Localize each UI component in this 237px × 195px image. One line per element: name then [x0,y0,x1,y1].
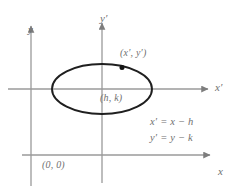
y-prime-axis-label: y′ [100,13,108,24]
y-axis-label: y [28,24,33,35]
point-marker [120,65,125,70]
x-prime-axis-label: x′ [215,82,223,93]
equation-x-prime: x′ = x − h [150,117,194,128]
point-coordinate-label: (x′, y′) [120,48,147,58]
x-axis-label: x [218,166,223,177]
origin-label: (0, 0) [42,160,65,170]
ellipse-center-label: (h, k) [100,93,122,103]
equation-y-prime: y′ = y − k [150,133,193,144]
translated-axes-ellipse-figure: y′ y x′ x (x′, y′) (h, k) (0, 0) x′ = x … [0,0,237,195]
